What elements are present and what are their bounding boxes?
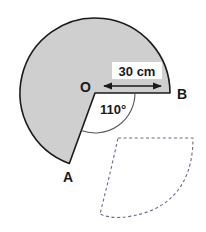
vertex-label-b: B — [177, 86, 187, 102]
angle-label: 110° — [100, 102, 126, 117]
vertex-label-a: A — [63, 169, 73, 185]
vertex-label-o: O — [80, 79, 91, 95]
radius-dimension-label: 30 cm — [119, 64, 156, 79]
figure-canvas: 30 cm 110° O B A — [0, 0, 206, 232]
geometry-figure: 30 cm 110° O B A — [0, 0, 206, 232]
